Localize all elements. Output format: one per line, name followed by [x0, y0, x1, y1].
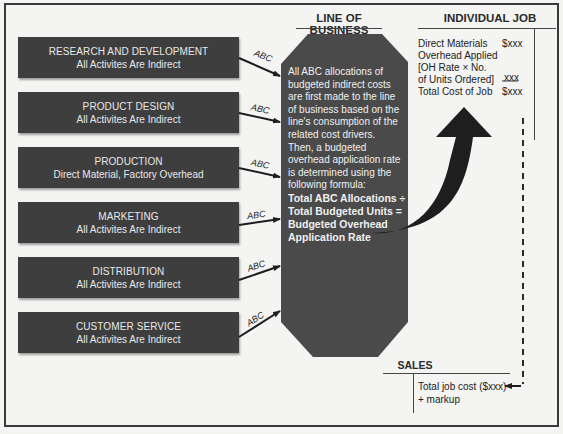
job-units-ordered: of Units Ordered]: [418, 74, 494, 86]
abc-arrow-production: [239, 168, 280, 177]
amount-total: $xxx: [502, 86, 523, 97]
job-overhead-applied: Overhead Applied: [418, 50, 498, 62]
lob-text-line: following formula:: [288, 179, 406, 192]
lob-text-line: budgeted indirect costs: [288, 79, 406, 92]
abc-arrow-research: [239, 58, 280, 76]
lob-text-line: is determined using the: [288, 167, 406, 180]
abc-allocation-arrows: [239, 58, 280, 337]
job-total-cost: Total Cost of Job: [418, 86, 492, 98]
job-oh-rate: [OH Rate × No.: [418, 62, 487, 74]
lob-text-line: All ABC allocations of: [288, 66, 406, 79]
sales-total-job-cost: Total job cost ($xxx): [418, 380, 506, 393]
lob-text-line: related cost drivers.: [288, 129, 406, 142]
sales-t-account-top: [383, 373, 510, 374]
formula-line: Total Budgeted Units =: [288, 205, 406, 218]
line-of-business-description: All ABC allocations of budgeted indirect…: [288, 66, 406, 244]
formula-line: Total ABC Allocations ÷: [288, 192, 406, 205]
sales-markup: + markup: [418, 393, 460, 406]
abc-arrow-product-design: [239, 113, 280, 122]
formula-line: Application Rate: [288, 231, 406, 244]
amount-overhead-applied: xxx: [504, 72, 519, 83]
lob-text-line: are first made to the line: [288, 91, 406, 104]
lob-text-line: line's consumption of the: [288, 116, 406, 129]
job-direct-materials: Direct Materials: [418, 38, 487, 50]
formula-line: Budgeted Overhead: [288, 218, 406, 231]
lob-text-line: of business based on the: [288, 104, 406, 117]
lob-text-line: Then, a budgeted: [288, 142, 406, 155]
sales-header: SALES: [395, 359, 435, 371]
amount-direct-materials: $xxx: [502, 38, 523, 49]
abc-arrow-marketing: [239, 219, 280, 225]
lob-text-line: overhead application rate: [288, 154, 406, 167]
sales-t-account-divider: [413, 373, 414, 413]
